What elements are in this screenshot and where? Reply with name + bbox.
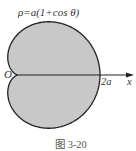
axis-label-x: x (127, 76, 132, 87)
origin-label: O (4, 68, 12, 80)
tick-label-2a: 2a (101, 76, 112, 87)
figure-caption: 图 3-20 (55, 136, 87, 151)
cardioid-diagram (0, 0, 136, 151)
equation-label: ρ=a(1+cos θ) (18, 6, 79, 18)
